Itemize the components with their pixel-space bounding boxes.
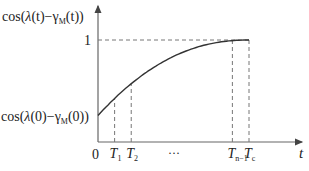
- x-tick-label: T1: [110, 146, 122, 163]
- y-start-label: cos(λ(0)−γM(0)): [1, 109, 89, 126]
- x-ellipsis: ···: [168, 146, 180, 160]
- chart: cos(λ(t)−γM(t)) 1 cos(λ(0)−γM(0)) 0 T1T2…: [0, 0, 309, 171]
- y-tick-one: 1: [84, 33, 91, 48]
- x-tick-label: Tc: [244, 146, 256, 163]
- origin-label: 0: [92, 147, 99, 162]
- y-axis-label: cos(λ(t)−γM(t)): [2, 9, 84, 26]
- curve: [98, 40, 249, 116]
- x-axis-label: t: [299, 145, 304, 161]
- x-tick-label: T2: [126, 146, 138, 163]
